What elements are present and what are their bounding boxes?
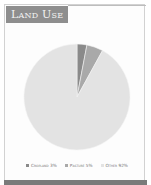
legend-label: Pasture 5% <box>70 163 93 168</box>
legend-label: Cropland 3% <box>31 163 57 168</box>
legend-label: Other 92% <box>106 163 128 168</box>
legend-item-pasture: Pasture 5% <box>65 163 93 168</box>
chart-title: Land Use <box>6 6 68 23</box>
legend-swatch-pasture <box>65 164 68 167</box>
pie-chart <box>23 43 131 151</box>
legend-item-cropland: Cropland 3% <box>26 163 57 168</box>
legend-swatch-other <box>101 164 104 167</box>
legend-item-other: Other 92% <box>101 163 128 168</box>
footer-bar <box>4 180 147 185</box>
pie-slice-other <box>24 44 130 150</box>
divider <box>68 5 146 6</box>
legend-swatch-cropland <box>26 164 29 167</box>
chart-legend: Cropland 3% Pasture 5% Other 92% <box>8 163 146 168</box>
